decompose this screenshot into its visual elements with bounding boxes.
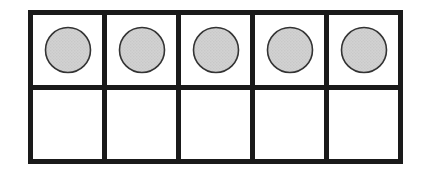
frame-cell[interactable] [255, 90, 324, 160]
counter-icon [44, 26, 92, 74]
frame-cell[interactable] [33, 90, 102, 160]
counter-icon [118, 26, 166, 74]
ten-frame-grid [28, 10, 403, 164]
frame-cell[interactable] [181, 90, 250, 160]
frame-cell[interactable] [107, 90, 176, 160]
counter-icon [340, 26, 388, 74]
frame-cell[interactable] [329, 90, 398, 160]
counter-icon [192, 26, 240, 74]
ten-frame-figure [0, 0, 427, 172]
frame-cell[interactable] [181, 15, 250, 85]
counter-icon [266, 26, 314, 74]
frame-cell[interactable] [329, 15, 398, 85]
frame-cell[interactable] [255, 15, 324, 85]
frame-cell[interactable] [33, 15, 102, 85]
frame-cell[interactable] [107, 15, 176, 85]
